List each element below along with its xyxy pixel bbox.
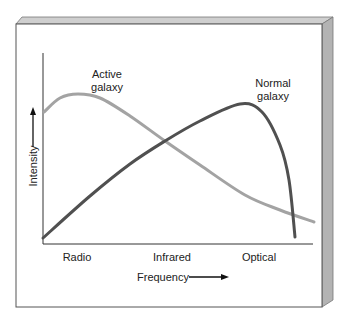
normal-galaxy-label: Normal galaxy bbox=[255, 77, 290, 103]
x-tick-optical: Optical bbox=[242, 251, 276, 264]
y-axis-title: Intensity bbox=[27, 146, 39, 187]
x-tick-radio: Radio bbox=[63, 251, 92, 264]
x-axis-title: Frequency bbox=[137, 271, 189, 284]
normal-galaxy-label-line2: galaxy bbox=[255, 90, 290, 103]
active-galaxy-label: Active galaxy bbox=[91, 68, 123, 94]
x-tick-infrared: Infrared bbox=[153, 251, 191, 264]
active-galaxy-label-line1: Active bbox=[91, 68, 123, 81]
normal-galaxy-label-line1: Normal bbox=[255, 77, 290, 90]
diagram-figure: Active galaxy Normal galaxy Radio Infrar… bbox=[0, 0, 346, 322]
active-galaxy-label-line2: galaxy bbox=[91, 81, 123, 94]
panel-face bbox=[16, 24, 322, 307]
panel-bevel-top bbox=[16, 17, 333, 24]
panel-bevel-right bbox=[322, 17, 333, 307]
